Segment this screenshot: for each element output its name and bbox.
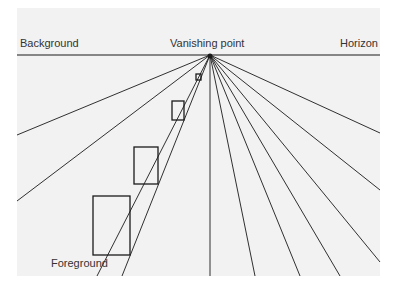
background-label: Background xyxy=(20,37,79,49)
perspective-rectangle xyxy=(134,147,158,184)
perspective-ray xyxy=(210,55,380,262)
perspective-ray xyxy=(210,55,340,276)
perspective-rectangle xyxy=(93,196,130,255)
perspective-ray xyxy=(97,55,210,276)
vanishing-point-label: Vanishing point xyxy=(170,37,244,49)
perspective-ray xyxy=(210,55,300,276)
vanishing-point-marker xyxy=(208,54,213,59)
horizon-label: Horizon xyxy=(340,37,378,49)
perspective-rays xyxy=(17,55,380,276)
perspective-ray xyxy=(17,55,210,135)
perspective-ray xyxy=(210,55,380,133)
receding-rectangles xyxy=(93,74,201,255)
foreground-label: Foreground xyxy=(51,257,108,269)
perspective-ray xyxy=(210,55,380,190)
perspective-ray xyxy=(210,55,255,276)
